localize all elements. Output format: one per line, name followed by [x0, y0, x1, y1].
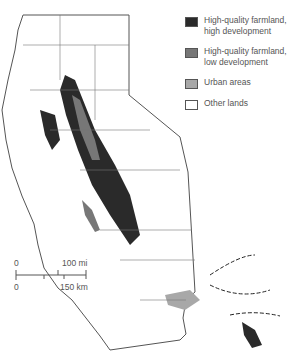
swatch-urban [185, 79, 198, 89]
swatch-other [185, 100, 198, 110]
legend-item-high-development: High-quality farmland, high development [185, 15, 305, 37]
scale-max-km: 150 km [60, 282, 88, 292]
scale-max-miles: 100 mi [62, 258, 88, 268]
legend-item-urban: Urban areas [185, 77, 305, 89]
map-legend: High-quality farmland, high development … [185, 15, 305, 119]
legend-label: Other lands [204, 98, 248, 109]
swatch-high-development [185, 17, 198, 27]
imperial-valley-farmland [242, 322, 262, 348]
legend-item-other: Other lands [185, 98, 305, 110]
legend-label: High-quality farmland, low development [204, 46, 287, 68]
legend-label: High-quality farmland, high development [204, 15, 287, 37]
swatch-low-development [185, 48, 198, 58]
legend-label: Urban areas [204, 77, 251, 88]
scale-zero-bottom: 0 [14, 282, 19, 292]
scale-zero-top: 0 [14, 258, 19, 268]
aqueducts [210, 255, 280, 316]
scale-bar: 0 100 mi 0 150 km [14, 258, 94, 294]
scale-ruler [14, 270, 89, 280]
legend-item-low-development: High-quality farmland, low development [185, 46, 305, 68]
